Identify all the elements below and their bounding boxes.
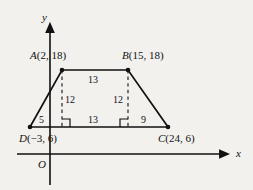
vertex-coords-d: (−3, 6) — [27, 132, 57, 144]
vertex-dot-a — [60, 68, 65, 73]
vertex-coords-a: (2, 18) — [37, 49, 66, 61]
vertex-label-b: B(15, 18) — [122, 50, 164, 61]
vertex-letter-d: D — [19, 132, 27, 144]
geometry-figure: y x O A(2, 18) B(15, 18) C(24, 6) D(−3, … — [0, 0, 253, 190]
vertex-dot-d — [28, 125, 33, 130]
segment-label-right-height: 12 — [113, 95, 123, 105]
vertex-label-a: A(2, 18) — [30, 50, 66, 61]
vertex-letter-b: B — [122, 49, 129, 61]
vertex-label-d: D(−3, 6) — [19, 133, 57, 144]
vertex-letter-a: A — [30, 49, 37, 61]
segment-label-left-base: 5 — [39, 115, 44, 125]
right-angle-marker-right — [120, 119, 128, 127]
vertex-dot-b — [126, 68, 131, 73]
segment-label-top: 13 — [88, 75, 98, 85]
vertex-coords-c: (24, 6) — [165, 132, 194, 144]
x-axis-label: x — [236, 148, 241, 159]
segment-label-bottom-middle: 13 — [88, 115, 98, 125]
vertex-label-c: C(24, 6) — [158, 133, 195, 144]
vertex-dot-c — [166, 125, 171, 130]
segment-label-right-base: 9 — [141, 115, 146, 125]
vertex-coords-b: (15, 18) — [129, 49, 164, 61]
origin-label: O — [38, 159, 46, 170]
y-axis-label: y — [42, 12, 47, 23]
right-angle-marker-left — [62, 119, 70, 127]
segment-label-left-height: 12 — [65, 95, 75, 105]
